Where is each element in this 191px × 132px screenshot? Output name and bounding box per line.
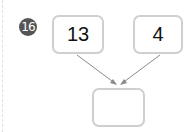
answer-box[interactable] xyxy=(92,88,145,127)
arrow-right-icon xyxy=(120,55,160,85)
arrow-left-icon xyxy=(77,55,117,85)
